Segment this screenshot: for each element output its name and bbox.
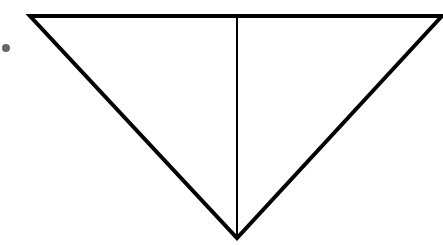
diagram-canvas bbox=[0, 0, 443, 245]
bullet-dot bbox=[2, 44, 10, 52]
